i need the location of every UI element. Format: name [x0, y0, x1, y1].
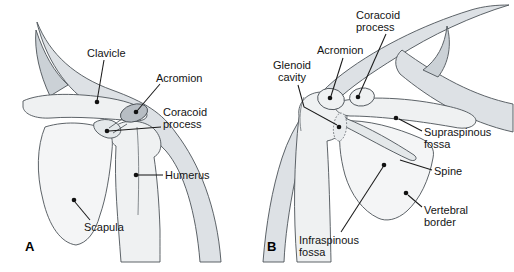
label-scapula: Scapula [84, 221, 124, 233]
leader-dot [134, 110, 139, 115]
label-line: cavity [268, 71, 316, 83]
label-infraspinous-fossa: Infraspinous fossa [299, 234, 359, 258]
leader-dot [134, 173, 139, 178]
leader-dot [337, 125, 342, 130]
leader-dot [72, 198, 77, 203]
label-line: border [424, 216, 468, 228]
leader-dot [356, 95, 361, 100]
label-clavicle: Clavicle [87, 47, 126, 59]
leader-dot [404, 191, 409, 196]
label-humerus: Humerus [165, 169, 210, 181]
label-line: Glenoid [268, 59, 316, 71]
label-line: Supraspinous [424, 126, 491, 138]
label-spine: Spine [434, 165, 462, 177]
leader-dot [382, 163, 387, 168]
humerus-shape [110, 121, 161, 262]
panel-letter-a: A [25, 240, 34, 253]
label-line: process [356, 21, 400, 33]
label-supraspinous-fossa: Supraspinous fossa [424, 126, 491, 150]
label-line: Infraspinous [299, 234, 359, 246]
label-coracoid-process-a: Coracoid process [163, 106, 207, 130]
label-line: Vertebral [424, 204, 468, 216]
label-coracoid-process-b: Coracoid process [356, 9, 400, 33]
shoulder-anatomy-figure: Clavicle Acromion Coracoid process Humer… [0, 0, 514, 272]
leader-dot [328, 96, 333, 101]
label-vertebral-border: Vertebral border [424, 204, 468, 228]
leader-dot [105, 129, 110, 134]
label-acromion-b: Acromion [317, 44, 363, 56]
label-line: fossa [424, 138, 491, 150]
label-line: process [163, 118, 207, 130]
label-acromion-a: Acromion [156, 72, 202, 84]
label-line: Coracoid [163, 106, 207, 118]
leader-dot [394, 116, 399, 121]
label-glenoid-cavity: Glenoid cavity [268, 59, 316, 83]
panel-letter-b: B [267, 240, 276, 253]
label-line: Coracoid [356, 9, 400, 21]
label-line: fossa [299, 246, 359, 258]
leader-dot [95, 100, 100, 105]
